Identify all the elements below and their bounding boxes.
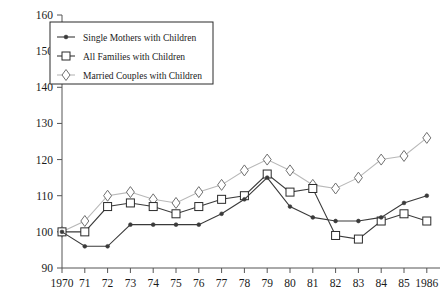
series-diamond: [58, 132, 431, 237]
data-point-diamond: [423, 132, 431, 143]
y-tick-label: 130: [36, 117, 54, 129]
data-point-dot: [64, 35, 68, 39]
data-point-dot: [129, 223, 133, 227]
data-point-diamond: [400, 150, 408, 161]
data-point-diamond: [354, 172, 362, 183]
data-point-diamond: [172, 197, 180, 208]
data-point-dot: [265, 176, 269, 180]
x-tick-label: 78: [239, 277, 251, 289]
data-point-dot: [357, 219, 361, 223]
data-point-dot: [379, 216, 383, 220]
data-point-square: [104, 203, 112, 211]
series-line: [62, 178, 427, 247]
data-point-square: [149, 203, 157, 211]
series-dot: [60, 176, 429, 248]
x-tick-label: 83: [353, 277, 365, 289]
data-point-dot: [334, 219, 338, 223]
data-point-diamond: [240, 165, 248, 176]
data-point-diamond: [332, 183, 340, 194]
x-tick-label: 81: [307, 277, 319, 289]
y-tick-label: 90: [42, 262, 54, 274]
data-point-dot: [197, 223, 201, 227]
data-point-square: [332, 231, 340, 239]
data-point-dot: [220, 212, 224, 216]
series-line: [62, 174, 427, 239]
data-point-square: [81, 228, 89, 236]
data-point-dot: [106, 244, 110, 248]
x-tick-label: 77: [216, 277, 228, 289]
data-point-square: [400, 210, 408, 218]
data-point-diamond: [126, 187, 134, 198]
legend-label: Married Couples with Children: [83, 71, 202, 81]
x-tick-label: 1986: [415, 277, 438, 289]
x-tick-label: 74: [147, 277, 159, 289]
data-point-square: [354, 235, 362, 243]
series-square: [58, 170, 431, 243]
x-tick-label: 72: [102, 277, 114, 289]
data-point-dot: [425, 194, 429, 198]
x-tick-label: 76: [193, 277, 205, 289]
legend-label: All Families with Children: [83, 52, 185, 62]
x-tick-label: 80: [284, 277, 296, 289]
data-point-square: [309, 184, 317, 192]
data-point-dot: [288, 205, 292, 209]
data-point-diamond: [263, 154, 271, 165]
y-tick-label: 120: [36, 154, 54, 166]
x-tick-label: 79: [261, 277, 273, 289]
x-tick-label: 85: [398, 277, 410, 289]
data-point-diamond: [286, 165, 294, 176]
x-tick-label: 75: [170, 277, 182, 289]
data-point-square: [126, 199, 134, 207]
series-line: [62, 138, 427, 232]
y-tick-label: 110: [36, 190, 53, 202]
line-chart: 9010011012013014015016019707172737475767…: [0, 0, 440, 299]
data-point-square: [286, 188, 294, 196]
chart-container: 9010011012013014015016019707172737475767…: [0, 0, 440, 299]
data-point-dot: [60, 230, 64, 234]
y-tick-label: 160: [36, 9, 54, 21]
data-point-dot: [402, 201, 406, 205]
x-tick-label: 84: [375, 277, 387, 289]
data-point-dot: [151, 223, 155, 227]
data-point-dot: [83, 244, 87, 248]
data-point-diamond: [377, 154, 385, 165]
y-tick-label: 100: [36, 226, 54, 238]
legend-label: Single Mothers with Children: [83, 33, 196, 43]
x-tick-label: 71: [79, 277, 91, 289]
data-point-diamond: [195, 187, 203, 198]
data-point-dot: [174, 223, 178, 227]
data-point-square: [423, 217, 431, 225]
data-point-square: [62, 52, 70, 60]
x-tick-label: 82: [330, 277, 342, 289]
data-point-diamond: [218, 179, 226, 190]
x-tick-label: 1970: [51, 277, 74, 289]
legend: Single Mothers with ChildrenAll Families…: [50, 22, 213, 84]
data-point-dot: [311, 216, 315, 220]
data-point-square: [218, 195, 226, 203]
x-tick-label: 73: [125, 277, 137, 289]
data-point-dot: [243, 197, 247, 201]
data-point-square: [172, 210, 180, 218]
data-point-square: [195, 203, 203, 211]
